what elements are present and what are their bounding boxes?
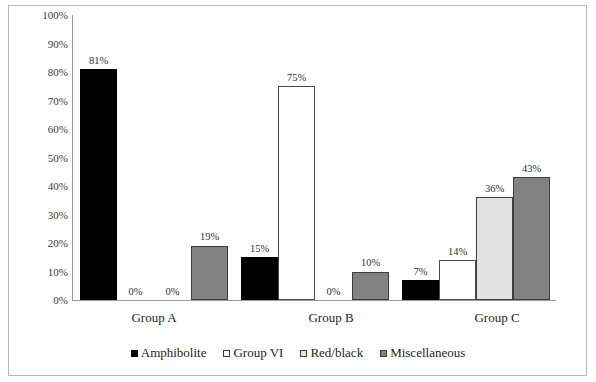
legend-label: Miscellaneous (390, 345, 465, 361)
legend-item-group-vi[interactable]: Group VI (223, 345, 283, 361)
legend-label: Group VI (233, 345, 283, 361)
bar-group-a-amphibolite[interactable] (80, 69, 117, 300)
bar-group-b-amphibolite[interactable] (241, 257, 278, 300)
y-tick-label: 40% (12, 181, 68, 192)
y-tick-label: 80% (12, 67, 68, 78)
y-tick-label: 10% (12, 266, 68, 277)
value-label: 0% (327, 287, 341, 298)
value-label: 36% (485, 184, 504, 195)
plot-area: 81% 0% 0% 19% 15% 75% 0% 10% 7% 14% 36% … (72, 15, 555, 300)
x-category-label-group-c: Group C (474, 310, 519, 326)
bar-group-c-redblack[interactable] (476, 197, 513, 300)
y-tick-label: 0% (12, 295, 68, 306)
value-label: 43% (522, 164, 541, 175)
value-label: 19% (200, 232, 219, 243)
value-label: 7% (414, 267, 428, 278)
legend-label: Red/black (310, 345, 363, 361)
bar-chart-figure: 100% 90% 80% 70% 60% 50% 40% 30% 20% 10%… (0, 0, 596, 382)
legend-item-amphibolite[interactable]: Amphibolite (131, 345, 207, 361)
y-tick-label: 70% (12, 95, 68, 106)
y-tick-label: 90% (12, 38, 68, 49)
legend-swatch-icon (300, 350, 307, 357)
legend-label: Amphibolite (141, 345, 207, 361)
x-category-label-group-b: Group B (308, 310, 353, 326)
y-tick-label: 60% (12, 124, 68, 135)
x-axis-line (72, 300, 556, 301)
y-axis-tick-labels: 100% 90% 80% 70% 60% 50% 40% 30% 20% 10%… (4, 15, 68, 300)
legend-item-red-black[interactable]: Red/black (300, 345, 363, 361)
value-label: 14% (448, 247, 467, 258)
x-category-label-group-a: Group A (131, 310, 176, 326)
value-label: 0% (166, 287, 180, 298)
value-label: 10% (361, 258, 380, 269)
legend-item-miscellaneous[interactable]: Miscellaneous (380, 345, 465, 361)
bar-group-c-amphibolite[interactable] (402, 280, 439, 300)
legend-swatch-icon (380, 350, 387, 357)
legend-swatch-icon (131, 350, 138, 357)
value-label: 15% (250, 244, 269, 255)
bar-group-c-groupvi[interactable] (439, 260, 476, 300)
y-tick-label: 50% (12, 152, 68, 163)
y-tick-label: 100% (12, 10, 68, 21)
bar-group-b-groupvi[interactable] (278, 86, 315, 300)
bar-group-c-miscellaneous[interactable] (513, 177, 550, 300)
chart-legend: Amphibolite Group VI Red/black Miscellan… (0, 345, 596, 361)
y-tick-label: 20% (12, 238, 68, 249)
y-tick-label: 30% (12, 209, 68, 220)
value-label: 81% (89, 56, 108, 67)
value-label: 0% (129, 287, 143, 298)
bar-group-a-miscellaneous[interactable] (191, 246, 228, 300)
value-label: 75% (287, 73, 306, 84)
bar-group-b-miscellaneous[interactable] (352, 272, 389, 301)
legend-swatch-icon (223, 350, 230, 357)
